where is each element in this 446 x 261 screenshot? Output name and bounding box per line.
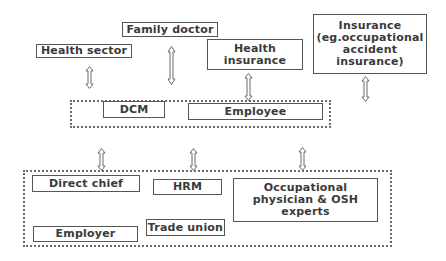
bidirectional-arrow-icon <box>361 76 370 102</box>
bidirectional-arrow-icon <box>298 147 307 171</box>
bidirectional-arrow-icon <box>167 46 176 85</box>
node-label: Occupational physician & OSH experts <box>253 182 358 218</box>
node-label: Employer <box>56 228 116 240</box>
node-health-insurance: Health insurance <box>207 39 303 70</box>
bidirectional-arrow-icon <box>189 148 198 171</box>
node-label: Family doctor <box>126 24 213 36</box>
node-employee: Employee <box>188 103 323 120</box>
bidirectional-arrow-icon <box>97 148 106 171</box>
bidirectional-arrow-icon <box>85 66 94 89</box>
node-dcm: DCM <box>103 101 165 118</box>
node-employer: Employer <box>33 226 138 242</box>
node-label: Insurance (eg.occupational accident insu… <box>316 20 423 68</box>
node-label: Employee <box>225 106 287 118</box>
node-label: Direct chief <box>49 178 123 190</box>
node-label: Health sector <box>41 45 127 57</box>
node-label: Trade union <box>148 222 223 234</box>
bidirectional-arrow-icon <box>244 73 253 101</box>
node-occupational-physician: Occupational physician & OSH experts <box>233 178 378 222</box>
node-hrm: HRM <box>153 179 222 195</box>
node-label: Health insurance <box>224 43 286 67</box>
node-insurance: Insurance (eg.occupational accident insu… <box>313 14 427 74</box>
node-label: HRM <box>173 181 202 193</box>
node-trade-union: Trade union <box>146 219 225 236</box>
node-health-sector: Health sector <box>36 44 132 58</box>
node-direct-chief: Direct chief <box>32 175 140 192</box>
node-family-doctor: Family doctor <box>122 22 218 37</box>
node-label: DCM <box>120 104 149 116</box>
